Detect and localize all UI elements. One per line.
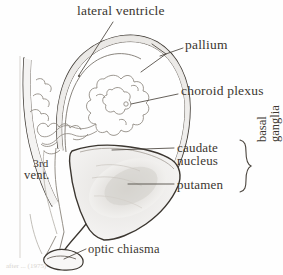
label-third-ventricle: 3rd vent. — [24, 158, 50, 182]
basal-ganglia-brace — [240, 140, 251, 192]
choroid-plexus-structure — [30, 75, 149, 154]
leader-choroid-plexus — [131, 94, 178, 104]
label-lateral-ventricle: lateral ventricle — [77, 4, 165, 18]
label-third-ventricle-line2: vent. — [24, 169, 50, 182]
basal-ganglia-mass — [70, 145, 180, 240]
label-pallium: pallium — [185, 38, 228, 52]
label-caudate-nucleus: caudate nucleus — [177, 141, 218, 168]
label-caudate-nucleus-line2: nucleus — [177, 154, 218, 167]
label-basal-ganglia-line2: ganglia — [269, 78, 282, 142]
figure-credit: after ... (1975) — [6, 262, 46, 270]
brain-section-drawing — [0, 0, 283, 275]
optic-chiasma-structure — [44, 249, 83, 270]
anatomy-figure: lateral ventricle pallium choroid plexus… — [0, 0, 283, 275]
leader-lateral-ventricle — [79, 22, 113, 75]
leader-pallium-prong-1 — [141, 54, 166, 72]
label-optic-chiasma: optic chiasma — [88, 243, 160, 256]
label-choroid-plexus: choroid plexus — [181, 84, 264, 98]
label-basal-ganglia: basal ganglia — [256, 78, 282, 142]
label-putamen: putamen — [177, 178, 223, 191]
